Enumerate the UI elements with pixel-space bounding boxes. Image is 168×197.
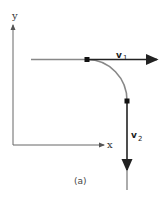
svg-text:1: 1 <box>123 54 127 62</box>
position-dot-2 <box>125 99 130 104</box>
position-dot-1 <box>85 57 90 62</box>
motion-diagram: y x v 1 v 2 (a) <box>0 0 168 197</box>
svg-text:v: v <box>116 50 122 60</box>
svg-text:v: v <box>131 130 137 140</box>
svg-text:2: 2 <box>138 135 142 143</box>
y-axis-label: y <box>11 10 18 21</box>
v2-label: v 2 <box>131 130 142 143</box>
figure-caption: (a) <box>74 176 87 186</box>
curved-path <box>87 59 127 101</box>
x-axis-label: x <box>107 139 113 150</box>
